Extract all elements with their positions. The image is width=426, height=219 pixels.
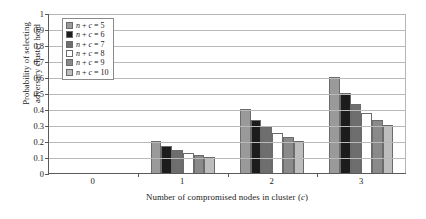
y-tick-mark [45,174,49,175]
y-tick-mark [45,94,49,95]
y-tick-mark [45,158,49,159]
bar [183,153,194,173]
legend-swatch [66,69,73,76]
gridline [49,158,406,159]
bar [251,120,262,173]
legend-swatch [66,50,73,57]
y-tick-mark [45,78,49,79]
gridline [49,110,406,111]
y-tick-label: 1 [40,10,44,19]
y-tick-mark [45,14,49,15]
legend-swatch [66,41,73,48]
y-tick-mark [45,142,49,143]
x-tick-label: 3 [317,176,407,190]
legend-label: n + c = 7 [76,40,105,49]
legend-label: n + c = 10 [76,68,109,77]
y-tick-label: 0.1 [34,154,44,163]
bar [351,104,362,173]
y-tick-label: 0.6 [34,74,44,83]
x-tick-label: 1 [138,176,228,190]
legend-label: n + c = 6 [76,30,105,39]
y-tick-mark [45,46,49,47]
legend-swatch [66,59,73,66]
bar [172,150,183,173]
legend-item: n + c = 8 [66,49,109,58]
y-tick-label: 0.7 [34,58,44,67]
legend-item: n + c = 6 [66,30,109,39]
x-tick-label: 0 [48,176,138,190]
bar [204,157,215,173]
bar [294,141,305,173]
y-tick-label: 0.9 [34,26,44,35]
y-axis-tick-labels: 10.90.80.70.60.50.40.30.20.10 [22,14,44,174]
y-tick-label: 0.5 [34,90,44,99]
gridline [49,142,406,143]
bar [151,141,162,173]
legend-swatch [66,22,73,29]
x-tick-label: 2 [227,176,317,190]
y-tick-label: 0.3 [34,122,44,131]
legend-label: n + c = 9 [76,58,105,67]
y-tick-label: 0 [40,170,44,179]
x-axis-title-variable: (c) [298,192,308,202]
legend-label: n + c = 8 [76,49,105,58]
bar [240,109,251,173]
y-tick-mark [45,30,49,31]
y-tick-label: 0.2 [34,138,44,147]
legend-item: n + c = 10 [66,67,109,76]
bar [161,146,172,173]
bar [372,120,383,173]
gridline [49,126,406,127]
bar [261,127,272,173]
legend-item: n + c = 5 [66,21,109,30]
y-tick-mark [45,126,49,127]
y-tick-label: 0.4 [34,106,44,115]
x-axis-title: Number of compromised nodes in cluster (… [48,192,406,202]
gridline [49,94,406,95]
legend-item: n + c = 7 [66,40,109,49]
legend-swatch [66,31,73,38]
x-axis-tick-labels: 0123 [48,176,406,190]
legend-item: n + c = 9 [66,58,109,67]
bar [272,133,283,173]
x-axis-title-text: Number of compromised nodes in cluster [146,192,296,202]
y-tick-mark [45,62,49,63]
bar [340,93,351,173]
bar [383,125,394,173]
legend-label: n + c = 5 [76,21,105,30]
bar-chart-figure: Probability of selecting adversary clust… [0,0,426,219]
legend: n + c = 5n + c = 6n + c = 7n + c = 8n + … [62,18,114,80]
bar [361,113,372,173]
y-tick-label: 0.8 [34,42,44,51]
y-tick-mark [45,110,49,111]
